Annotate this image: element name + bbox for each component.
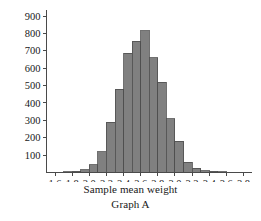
y-tick-label: 600 xyxy=(25,63,41,74)
histogram-bar xyxy=(175,141,184,172)
plot-area: 1002003004005006007008009001.61.82.02.22… xyxy=(0,0,261,182)
y-tick-label: 200 xyxy=(25,132,41,143)
figure-caption: Graph A xyxy=(0,197,261,212)
histogram-bar xyxy=(98,152,107,173)
y-tick-label: 900 xyxy=(25,11,41,22)
histogram-bar xyxy=(89,165,98,173)
y-tick-label: 100 xyxy=(25,150,41,161)
histogram-bar xyxy=(149,58,158,173)
histogram-bar xyxy=(141,31,150,173)
x-axis-label: Sample mean weight xyxy=(0,182,261,197)
histogram-bar xyxy=(158,82,167,172)
histogram-figure: 1002003004005006007008009001.61.82.02.22… xyxy=(0,0,261,221)
y-tick-label: 400 xyxy=(25,98,41,109)
y-tick-label: 700 xyxy=(25,45,41,56)
histogram-bar xyxy=(115,89,124,172)
histogram-bar xyxy=(192,168,201,172)
y-tick-label: 300 xyxy=(25,115,41,126)
y-tick-label: 800 xyxy=(25,28,41,39)
y-tick-label: 500 xyxy=(25,80,41,91)
histogram-bar xyxy=(132,41,141,172)
histogram-bar xyxy=(166,119,175,173)
histogram-bar xyxy=(124,53,133,172)
histogram-chart: 1002003004005006007008009001.61.82.02.22… xyxy=(0,0,261,182)
histogram-bar xyxy=(184,162,193,172)
figure-caption-block: Sample mean weight Graph A xyxy=(0,182,261,212)
histogram-bar xyxy=(106,122,115,172)
